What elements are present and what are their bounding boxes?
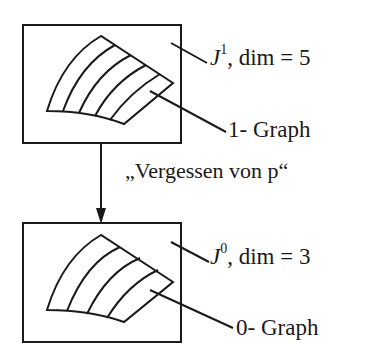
bottom-graph-label: 0- Graph — [236, 316, 318, 339]
top-graph-label: 1- Graph — [228, 118, 310, 141]
leader-line-1-graph — [150, 91, 226, 132]
bottom-space-label: J0, dim = 3 — [210, 245, 310, 268]
leader-line-0-graph — [150, 290, 233, 328]
space-superscript: 1 — [220, 42, 227, 57]
top-space-label: J1, dim = 5 — [210, 46, 310, 69]
bottom-jet-space-box — [23, 223, 181, 342]
arrow-head-icon — [96, 208, 106, 224]
dim-text: , dim = 5 — [227, 45, 310, 70]
leader-line-j0 — [171, 242, 209, 262]
forget-p-label: „Vergessen von p“ — [125, 160, 288, 182]
space-symbol: J — [210, 45, 220, 70]
leader-line-j1 — [171, 43, 207, 63]
dim-text: , dim = 3 — [227, 244, 310, 269]
top-fan-surface — [47, 36, 173, 124]
top-jet-space-box — [23, 25, 181, 143]
bottom-fan-surface — [47, 235, 173, 322]
space-symbol: J — [210, 244, 220, 269]
space-superscript: 0 — [220, 241, 227, 256]
